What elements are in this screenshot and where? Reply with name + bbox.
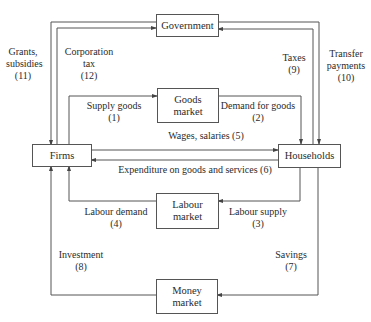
firms-label: Firms [50, 150, 75, 162]
households-node: Households [278, 144, 341, 168]
flow-8-label: Investment (8) [58, 249, 104, 273]
flow-2-text: Demand for goods [220, 100, 296, 112]
goods-market-label-2: market [173, 106, 202, 118]
labour-market-label-1: Labour [172, 199, 202, 211]
money-market-node: Money market [156, 279, 218, 314]
flow-8-text: Investment [58, 249, 104, 261]
flow-7-text: Savings [274, 249, 308, 261]
flow-2-label: Demand for goods (2) [220, 100, 296, 124]
flow-1-text: Supply goods [82, 100, 146, 112]
firms-node: Firms [32, 144, 92, 167]
flow-10-label: Transfer payments (10) [324, 48, 368, 84]
flow-11-text-2: subsidies [6, 58, 40, 70]
flow-6-text: Expenditure on goods and services (6) [112, 164, 278, 176]
flow-8-num: (8) [58, 261, 104, 273]
flow-9-num: (9) [279, 64, 309, 76]
flow-1-label: Supply goods (1) [82, 100, 146, 124]
goods-market-node: Goods market [157, 88, 219, 123]
flow-7-label: Savings (7) [274, 249, 308, 273]
flow-10-text-2: payments [324, 60, 368, 72]
flow-7-num: (7) [274, 261, 308, 273]
flow-2-num: (2) [220, 112, 296, 124]
money-market-label-2: market [172, 297, 201, 309]
government-label: Government [161, 20, 214, 32]
flow-12-num: (12) [64, 70, 114, 82]
flow-10-num: (10) [324, 72, 368, 84]
goods-market-label-1: Goods [174, 94, 201, 106]
government-node: Government [156, 14, 219, 37]
labour-market-label-2: market [173, 211, 202, 223]
flow-11-num: (11) [6, 70, 40, 82]
money-market-label-1: Money [172, 285, 202, 297]
flow-3-label: Labour supply (3) [228, 206, 288, 230]
flow-5-label: Wages, salaries (5) [151, 130, 261, 142]
flow-11-label: Grants, subsidies (11) [6, 46, 40, 82]
flow-9-label: Taxes (9) [279, 52, 309, 76]
flow-3-num: (3) [228, 218, 288, 230]
flow-6-label: Expenditure on goods and services (6) [112, 164, 278, 176]
flow-1-num: (1) [82, 112, 146, 124]
flow-3-text: Labour supply [228, 206, 288, 218]
flow-4-num: (4) [84, 218, 148, 230]
flow-4-text: Labour demand [84, 206, 148, 218]
flow-12-text-1: Corporation [64, 46, 114, 58]
flow-10-text-1: Transfer [324, 48, 368, 60]
flow-12-label: Corporation tax (12) [64, 46, 114, 82]
flow-12-text-2: tax [64, 58, 114, 70]
households-label: Households [285, 150, 335, 162]
flow-11-text-1: Grants, [6, 46, 40, 58]
flow-5-text: Wages, salaries (5) [151, 130, 261, 142]
labour-market-node: Labour market [156, 193, 219, 229]
flow-9-text: Taxes [279, 52, 309, 64]
flow-4-label: Labour demand (4) [84, 206, 148, 230]
